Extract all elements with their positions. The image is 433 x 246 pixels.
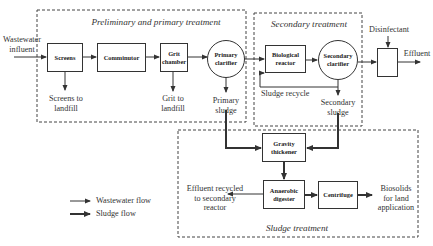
secondary-clarifier-circle[interactable]: Secondary clarifier	[318, 40, 358, 80]
effluent-recycled-label: Effluent recycled to secondary reactor	[183, 184, 247, 213]
comminutor-box[interactable]: Comminutor	[97, 43, 146, 72]
disinfection-box[interactable]	[377, 48, 398, 77]
influent-label: Wastewater influent	[2, 35, 42, 54]
grit-out-label: Grit to landfill	[156, 94, 190, 113]
anaerobic-digester-box[interactable]: Anaerobic digester	[263, 180, 305, 209]
biological-reactor-box[interactable]: Biological reactor	[265, 45, 306, 73]
section-title-sludge: Sludge treatment	[257, 223, 337, 233]
centrifuge-box[interactable]: Centrifuge	[318, 181, 358, 209]
legend-wastewater-label: Wastewater flow	[96, 196, 151, 206]
grit-chamber-box[interactable]: Grit chamber	[160, 43, 188, 72]
effluent-label: Effluent	[402, 49, 432, 59]
biosolids-label: Biosolids for land application	[375, 184, 417, 213]
screens-box[interactable]: Screens	[47, 43, 83, 72]
screens-out-label: Screens to landfill	[44, 94, 88, 113]
gravity-thickener-box[interactable]: Gravity thickener	[262, 133, 306, 162]
primary-clarifier-circle[interactable]: Primary clarifier	[207, 40, 245, 78]
section-title-primary: Preliminary and primary treatment	[76, 17, 236, 27]
legend-sludge-label: Sludge flow	[96, 209, 136, 219]
sludge-recycle-label: Sludge recycle	[261, 89, 309, 99]
primary-sludge-label: Primary sludge	[208, 96, 244, 115]
secondary-sludge-label: Secondary sludge	[316, 98, 360, 117]
disinfectant-label: Disinfectant	[364, 25, 414, 35]
primary-sludge-to-thickener-arrow	[226, 110, 261, 148]
section-title-secondary: Secondary treatment	[264, 19, 354, 29]
